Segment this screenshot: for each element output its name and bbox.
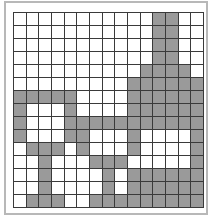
grid-cell[interactable] [103,182,116,195]
grid-cell[interactable] [90,117,103,130]
grid-cell[interactable] [27,195,40,208]
grid-cell[interactable] [166,104,179,117]
grid-cell[interactable] [14,195,27,208]
grid-cell[interactable] [77,169,90,182]
grid-cell[interactable] [166,156,179,169]
grid-cell[interactable] [141,65,154,78]
grid-cell[interactable] [39,13,52,26]
grid-cell[interactable] [179,169,192,182]
grid-cell[interactable] [103,91,116,104]
grid-cell[interactable] [90,78,103,91]
grid-cell[interactable] [191,26,204,39]
grid-cell[interactable] [90,65,103,78]
grid-cell[interactable] [128,104,141,117]
grid-cell[interactable] [27,78,40,91]
grid-cell[interactable] [191,195,204,208]
grid-cell[interactable] [90,104,103,117]
grid-cell[interactable] [27,104,40,117]
grid-cell[interactable] [39,143,52,156]
grid-cell[interactable] [103,65,116,78]
grid-cell[interactable] [14,130,27,143]
grid-cell[interactable] [65,169,78,182]
grid-cell[interactable] [166,195,179,208]
grid-cell[interactable] [191,130,204,143]
grid-cell[interactable] [191,52,204,65]
grid-cell[interactable] [103,26,116,39]
grid-cell[interactable] [191,169,204,182]
grid-cell[interactable] [27,65,40,78]
grid-cell[interactable] [153,65,166,78]
grid-cell[interactable] [166,65,179,78]
grid-cell[interactable] [128,52,141,65]
grid-cell[interactable] [65,182,78,195]
grid-cell[interactable] [153,182,166,195]
grid-cell[interactable] [115,104,128,117]
grid-cell[interactable] [39,182,52,195]
grid-cell[interactable] [128,182,141,195]
grid-cell[interactable] [90,182,103,195]
grid-cell[interactable] [103,117,116,130]
grid-cell[interactable] [141,104,154,117]
grid-cell[interactable] [39,78,52,91]
grid-cell[interactable] [77,117,90,130]
grid-cell[interactable] [179,182,192,195]
grid-cell[interactable] [14,26,27,39]
grid-cell[interactable] [65,130,78,143]
grid-cell[interactable] [77,26,90,39]
grid-cell[interactable] [128,39,141,52]
grid-cell[interactable] [14,143,27,156]
grid-cell[interactable] [153,104,166,117]
grid-cell[interactable] [191,156,204,169]
grid-cell[interactable] [39,39,52,52]
grid-cell[interactable] [153,130,166,143]
grid-cell[interactable] [39,195,52,208]
grid-cell[interactable] [103,156,116,169]
grid-cell[interactable] [90,91,103,104]
grid-cell[interactable] [103,130,116,143]
grid-cell[interactable] [191,39,204,52]
grid-cell[interactable] [166,13,179,26]
grid-cell[interactable] [141,26,154,39]
grid-cell[interactable] [128,195,141,208]
grid-cell[interactable] [103,104,116,117]
grid-cell[interactable] [166,143,179,156]
grid-cell[interactable] [128,91,141,104]
grid-cell[interactable] [179,26,192,39]
grid-cell[interactable] [39,26,52,39]
grid-cell[interactable] [77,39,90,52]
grid-cell[interactable] [115,130,128,143]
grid-cell[interactable] [128,65,141,78]
grid-cell[interactable] [115,182,128,195]
grid-cell[interactable] [65,195,78,208]
grid-cell[interactable] [128,26,141,39]
grid-cell[interactable] [141,39,154,52]
grid-cell[interactable] [52,26,65,39]
grid-cell[interactable] [115,195,128,208]
grid-cell[interactable] [191,143,204,156]
grid-cell[interactable] [39,65,52,78]
grid-cell[interactable] [77,65,90,78]
grid-cell[interactable] [77,143,90,156]
grid-cell[interactable] [65,91,78,104]
grid-cell[interactable] [52,91,65,104]
grid-cell[interactable] [14,182,27,195]
grid-cell[interactable] [141,195,154,208]
grid-cell[interactable] [191,65,204,78]
grid-cell[interactable] [65,156,78,169]
grid-cell[interactable] [153,143,166,156]
grid-cell[interactable] [141,117,154,130]
grid-cell[interactable] [179,143,192,156]
grid-cell[interactable] [166,182,179,195]
grid-cell[interactable] [115,143,128,156]
grid-cell[interactable] [153,52,166,65]
grid-cell[interactable] [65,52,78,65]
grid-cell[interactable] [52,52,65,65]
grid-cell[interactable] [166,78,179,91]
grid-cell[interactable] [77,78,90,91]
grid-cell[interactable] [65,26,78,39]
grid-cell[interactable] [115,39,128,52]
grid-cell[interactable] [90,156,103,169]
grid-cell[interactable] [153,117,166,130]
grid-cell[interactable] [52,195,65,208]
grid-cell[interactable] [39,156,52,169]
